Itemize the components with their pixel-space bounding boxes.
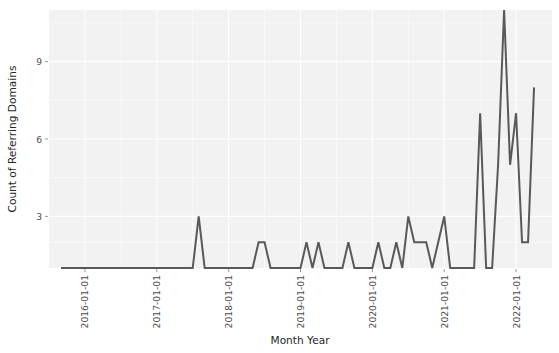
y-tick-label: 9 — [36, 56, 42, 67]
line-chart-figure: 2016-01-012017-01-012018-01-012019-01-01… — [0, 0, 559, 353]
x-tick-label: 2022-01-01 — [511, 275, 522, 328]
y-tick-label: 6 — [36, 134, 42, 145]
x-tick-label: 2020-01-01 — [367, 275, 378, 328]
x-tick-label: 2021-01-01 — [439, 275, 450, 328]
y-tick-label: 3 — [36, 211, 42, 222]
x-tick-label: 2016-01-01 — [79, 275, 90, 328]
x-tick-label: 2018-01-01 — [223, 275, 234, 328]
x-axis-title: Month Year — [271, 334, 331, 346]
x-tick-label: 2019-01-01 — [295, 275, 306, 328]
x-tick-label: 2017-01-01 — [151, 275, 162, 328]
chart-container: 2016-01-012017-01-012018-01-012019-01-01… — [0, 0, 559, 353]
y-axis-title: Count of Referring Domains — [6, 66, 18, 213]
